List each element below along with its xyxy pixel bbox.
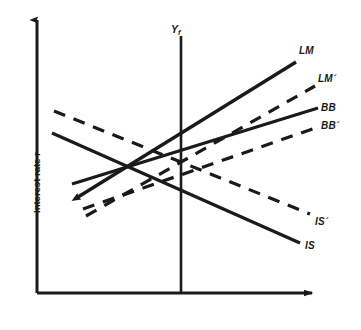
yf-subscript: f [178,28,181,37]
curve-lm-prime [86,86,315,216]
y-axis-label: Interest rate r [32,152,42,213]
yf-main-text: Y [171,23,178,35]
curve-label-lm-prime: LM´ [318,74,336,84]
curve-label-is: IS [305,241,315,251]
curve-lm [78,62,296,197]
curve-bb [72,108,318,184]
curve-is [52,133,300,243]
curve-label-bb: BB [321,103,336,113]
is-lm-bb-diagram: Interest rate r Yf LM LM´ BB BB´ IS IS´ [0,0,361,330]
curve-label-bb-prime: BB´ [321,121,339,131]
curve-label-lm: LM [299,46,314,56]
full-employment-output-label: Yf [171,24,181,35]
curve-label-is-prime: IS´ [315,217,328,227]
curve-bb-prime [83,127,318,209]
